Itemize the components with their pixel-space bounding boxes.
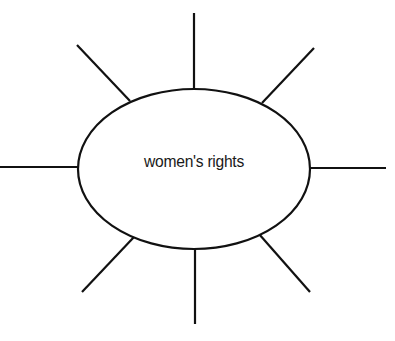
spoke-bottom-left — [82, 237, 134, 292]
spoke-bottom-right — [259, 234, 310, 292]
spoke-top-left — [77, 45, 130, 101]
center-label: women's rights — [85, 152, 302, 172]
spoke-top-right — [262, 48, 314, 103]
